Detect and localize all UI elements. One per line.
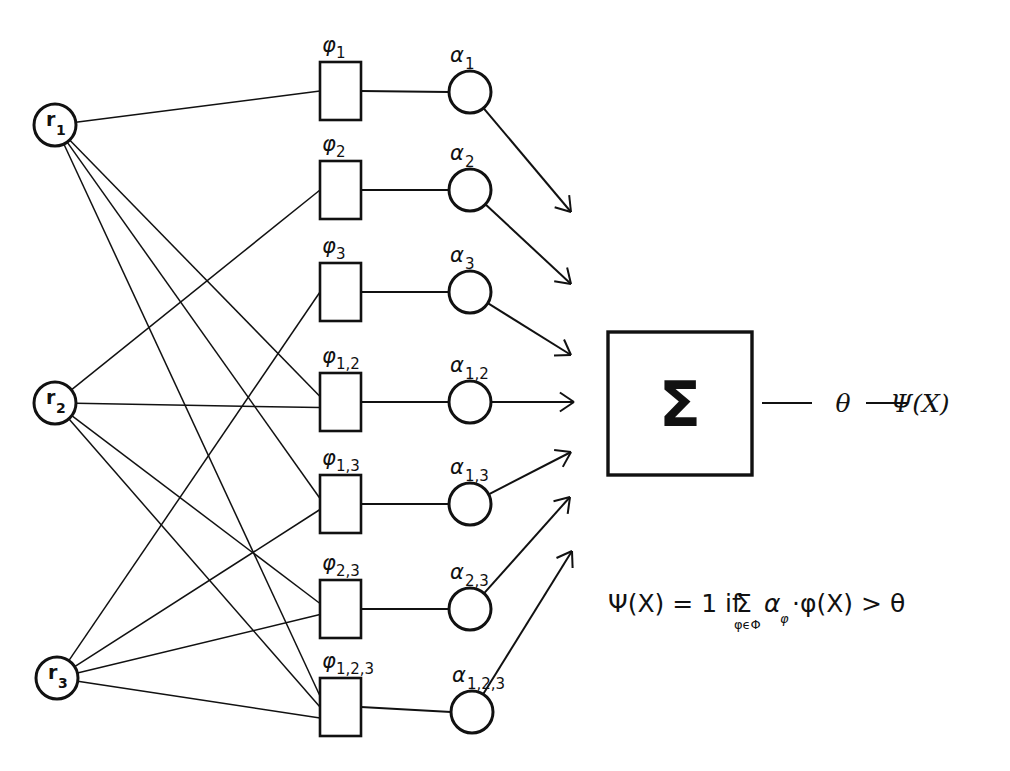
feature-label-sub-phi12: 1,2	[336, 355, 360, 373]
threshold-theta-label: θ	[835, 389, 850, 418]
feature-label-base-phi23: φ	[322, 551, 336, 575]
weight-label-sub-a123: 1,2,3	[467, 675, 505, 693]
feature-label-base-phi3: φ	[322, 234, 336, 258]
weight-node-circle-a13[interactable]	[449, 483, 491, 525]
feature-label-sub-phi1: 1	[336, 44, 346, 62]
feature-to-weight-links	[361, 91, 451, 712]
feature-box-phi13[interactable]: φ1,3	[320, 446, 361, 533]
weight-label-base-a23: α	[450, 560, 464, 584]
feature-label-base-phi123: φ	[322, 649, 336, 673]
edge-r1-to-phi12	[70, 140, 320, 396]
feature-box-rect-phi3[interactable]	[320, 263, 361, 321]
weight-node-a12[interactable]: α1,2	[449, 353, 491, 423]
weight-label-sub-a13: 1,3	[465, 467, 489, 485]
feature-box-group: φ1φ2φ3φ1,2φ1,3φ2,3φ1,2,3	[320, 33, 374, 736]
weight-label-base-a3: α	[450, 243, 464, 267]
edge-r1-to-phi1	[76, 91, 320, 122]
input-node-r2[interactable]: r2	[34, 382, 76, 424]
weight-node-group: α1α2α3α1,2α1,3α2,3α1,2,3	[449, 43, 505, 733]
summation-group: Σ	[608, 332, 752, 475]
weight-node-a1[interactable]: α1	[449, 43, 491, 113]
weight-label-base-a123: α	[452, 663, 466, 687]
feature-box-rect-phi13[interactable]	[320, 475, 361, 533]
formula-lhs: Ψ(X) = 1 if	[608, 589, 742, 618]
diagram-canvas: φ1φ2φ3φ1,2φ1,3φ2,3φ1,2,3 r1r2r3 α1α2α3α1…	[0, 0, 1010, 771]
arrow-a3-to-summation	[488, 303, 571, 355]
arrow-a23-to-summation	[484, 497, 570, 593]
input-node-base-r2: r	[46, 386, 56, 408]
output-psi-label: Ψ(X)	[890, 389, 949, 418]
feature-box-phi12[interactable]: φ1,2	[320, 344, 361, 431]
weight-label-sub-a1: 1	[465, 55, 475, 73]
feature-box-phi1[interactable]: φ1	[320, 33, 361, 120]
feature-label-base-phi2: φ	[322, 132, 336, 156]
feature-label-sub-phi23: 2,3	[336, 562, 360, 580]
weight-node-circle-a2[interactable]	[449, 169, 491, 211]
feature-box-phi3[interactable]: φ3	[320, 234, 361, 321]
input-node-r1[interactable]: r1	[34, 104, 76, 146]
feature-label-sub-phi123: 1,2,3	[336, 660, 374, 678]
summation-box[interactable]: Σ	[608, 332, 752, 475]
feature-box-phi123[interactable]: φ1,2,3	[320, 649, 374, 736]
weight-node-circle-a23[interactable]	[449, 588, 491, 630]
weight-node-circle-a3[interactable]	[449, 271, 491, 313]
edge-r2-to-phi2	[71, 190, 320, 390]
weight-label-base-a2: α	[450, 141, 464, 165]
formula-alpha-subscript: φ	[780, 611, 789, 626]
edge-r3-to-phi13	[75, 510, 320, 667]
weight-node-circle-a1[interactable]	[449, 71, 491, 113]
formula-rest: ·φ(X) > θ	[792, 589, 905, 618]
arrow-a2-to-summation	[485, 204, 571, 284]
summation-sigma-glyph: Σ	[659, 368, 701, 441]
link-phi123-to-a123	[361, 707, 451, 712]
feature-box-phi2[interactable]: φ2	[320, 132, 361, 219]
edge-r2-to-phi12	[76, 403, 320, 407]
weight-node-a13[interactable]: α1,3	[449, 455, 491, 525]
edge-r2-to-phi123	[69, 419, 320, 707]
weight-node-a3[interactable]: α3	[449, 243, 491, 313]
feature-label-base-phi12: φ	[322, 344, 336, 368]
input-node-sub-r2: 2	[56, 400, 66, 416]
edge-r3-to-phi3	[69, 292, 320, 661]
arrow-a1-to-summation	[484, 108, 571, 212]
feature-label-sub-phi3: 3	[336, 245, 346, 263]
weight-label-sub-a12: 1,2	[465, 365, 489, 383]
feature-box-rect-phi23[interactable]	[320, 580, 361, 638]
edge-r1-to-phi13	[67, 142, 320, 498]
input-node-base-r3: r	[48, 661, 58, 683]
network-diagram: φ1φ2φ3φ1,2φ1,3φ2,3φ1,2,3 r1r2r3 α1α2α3α1…	[0, 0, 1010, 771]
weight-to-sum-arrows	[483, 108, 574, 694]
weight-label-sub-a3: 3	[465, 255, 475, 273]
weight-label-sub-a2: 2	[465, 153, 475, 171]
weight-node-circle-a12[interactable]	[449, 381, 491, 423]
weight-label-base-a12: α	[450, 353, 464, 377]
weight-node-a23[interactable]: α2,3	[449, 560, 491, 630]
input-node-sub-r3: 3	[58, 675, 68, 691]
feature-box-rect-phi123[interactable]	[320, 678, 361, 736]
feature-box-rect-phi1[interactable]	[320, 62, 361, 120]
weight-node-a2[interactable]: α2	[449, 141, 491, 211]
input-node-group: r1r2r3	[34, 104, 78, 699]
formula-group: Ψ(X) = 1 ifΣφϵΦαφ·φ(X) > θ	[608, 589, 905, 632]
input-to-feature-edges	[64, 91, 320, 718]
input-node-base-r1: r	[46, 108, 56, 130]
weight-label-base-a13: α	[450, 455, 464, 479]
feature-box-phi23[interactable]: φ2,3	[320, 551, 361, 638]
input-node-r3[interactable]: r3	[36, 657, 78, 699]
feature-box-rect-phi2[interactable]	[320, 161, 361, 219]
weight-node-circle-a123[interactable]	[451, 691, 493, 733]
feature-label-sub-phi2: 2	[336, 143, 346, 161]
threshold-formula: Ψ(X) = 1 ifΣφϵΦαφ·φ(X) > θ	[608, 589, 905, 632]
input-node-sub-r1: 1	[56, 122, 66, 138]
feature-label-base-phi13: φ	[322, 446, 336, 470]
edge-r3-to-phi123	[78, 681, 320, 718]
link-phi1-to-a1	[361, 91, 449, 92]
edge-r2-to-phi23	[72, 416, 320, 604]
feature-box-rect-phi12[interactable]	[320, 373, 361, 431]
arrow-a13-to-summation	[489, 450, 571, 494]
formula-alpha: α	[764, 589, 781, 618]
output-chain-group: θΨ(X)	[762, 389, 950, 418]
feature-label-base-phi1: φ	[322, 33, 336, 57]
edge-r1-to-phi123	[64, 144, 320, 696]
feature-label-sub-phi13: 1,3	[336, 457, 360, 475]
